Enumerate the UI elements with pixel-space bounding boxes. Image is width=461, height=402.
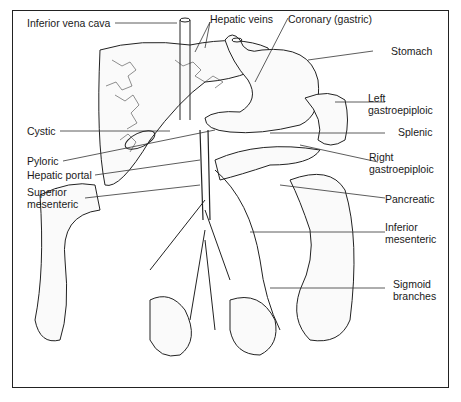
label-sigmoid-branches: Sigmoid	[393, 278, 431, 290]
label-left-gastroepiploic-2: gastroepiploic	[368, 104, 433, 116]
spleen	[305, 93, 348, 145]
label-inferior-vena-cava: Inferior vena cava	[27, 17, 110, 29]
label-inferior-mesenteric-2: mesenteric	[385, 233, 436, 245]
label-left-gastroepiploic: Left	[368, 92, 386, 104]
small-intestine	[150, 297, 276, 356]
label-stomach: Stomach	[391, 45, 432, 57]
label-right-gastroepiploic: Right	[369, 151, 394, 163]
hepatic-portal-vein	[200, 130, 210, 220]
pancreas	[215, 147, 320, 180]
label-hepatic-veins: Hepatic veins	[210, 13, 273, 25]
label-superior-mesenteric: Superior	[27, 186, 67, 198]
label-superior-mesenteric-2: mesenteric	[27, 198, 78, 210]
label-coronary-gastric: Coronary (gastric)	[288, 13, 372, 25]
descending-colon	[290, 174, 354, 340]
label-sigmoid-branches-2: branches	[393, 290, 436, 302]
label-inferior-mesenteric: Inferior	[385, 221, 418, 233]
label-pancreatic: Pancreatic	[385, 193, 435, 205]
label-hepatic-portal: Hepatic portal	[27, 169, 92, 181]
label-right-gastroepiploic-2: gastroepiploic	[369, 163, 434, 175]
label-pyloric: Pyloric	[27, 155, 59, 167]
label-splenic: Splenic	[398, 126, 432, 138]
label-cystic: Cystic	[27, 125, 56, 137]
